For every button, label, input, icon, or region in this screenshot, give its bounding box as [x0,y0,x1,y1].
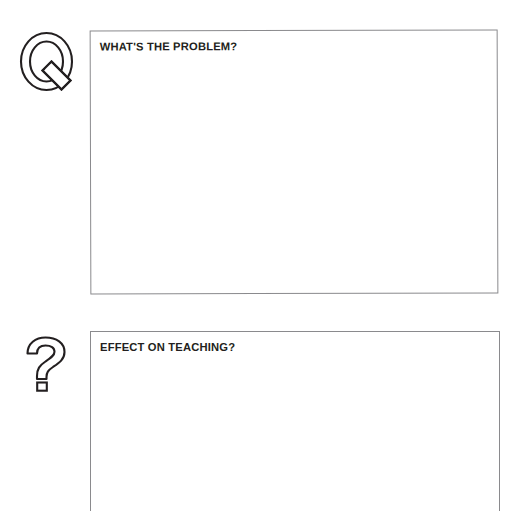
response-area-effect[interactable] [92,360,498,510]
letter-q-outline-icon [18,30,78,96]
prompt-label-problem: WHAT'S THE PROBLEM? [100,39,238,53]
question-mark-outline-icon [24,336,70,392]
answer-box-effect[interactable]: EFFECT ON TEACHING? [90,331,500,511]
prompt-label-effect: EFFECT ON TEACHING? [100,340,235,354]
response-area-problem[interactable] [92,58,497,292]
answer-box-problem[interactable]: WHAT'S THE PROBLEM? [90,29,499,294]
